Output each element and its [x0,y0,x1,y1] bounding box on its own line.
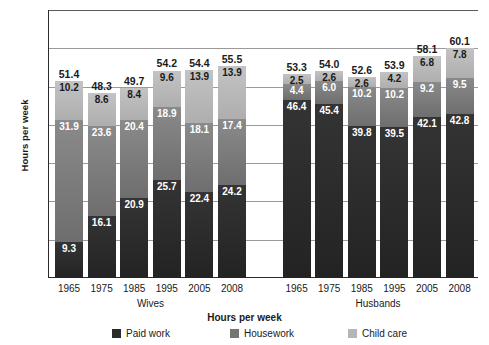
segment-value-label: 6.0 [315,83,343,93]
bar-segment-child: 2.6 [348,77,376,87]
segment-value-label: 25.7 [153,182,181,192]
bar-wives-2008: 13.917.424.2 [218,66,246,278]
bar-segment-paid: 39.5 [380,127,408,278]
segment-value-label: 13.9 [185,72,213,82]
bar-segment-house: 9.2 [413,82,441,117]
y-axis-title: Hours per week [19,76,30,196]
segment-value-label: 24.2 [218,187,246,197]
segment-value-label: 39.5 [380,129,408,139]
bar-segment-child: 13.9 [185,70,213,123]
bar-total-label: 55.5 [212,53,252,65]
segment-value-label: 4.2 [380,74,408,84]
bar-wives-1995: 9.618.925.7 [153,71,181,279]
bar-segment-paid: 42.1 [413,117,441,278]
bar-segment-child: 2.6 [315,71,343,81]
bar-total-label: 49.7 [114,75,154,87]
segment-value-label: 20.9 [120,200,148,210]
legend-label: Paid work [126,328,170,339]
segment-value-label: 10.2 [380,90,408,100]
segment-value-label: 31.9 [55,122,83,132]
bar-wives-2005: 13.918.122.4 [185,70,213,278]
bar-total-label: 60.1 [440,35,480,47]
legend-item-housework[interactable]: Housework [230,328,294,339]
bar-total-label: 53.9 [374,59,414,71]
bar-husbands-1965: 2.54.446.4 [283,74,311,278]
bar-segment-house: 10.2 [348,87,376,126]
segment-value-label: 8.6 [88,95,116,105]
segment-value-label: 4.4 [283,86,311,96]
bar-segment-house: 6.0 [315,81,343,104]
x-tick-label-husbands-2008: 2008 [440,283,480,294]
legend-swatch-icon [230,329,239,338]
bar-husbands-2008: 7.89.542.8 [446,48,474,278]
stacked-bar-chart: Hours per week 010203040506070 10.231.99… [0,0,489,345]
legend-swatch-icon [112,329,121,338]
segment-value-label: 42.8 [446,116,474,126]
bar-segment-paid: 42.8 [446,114,474,278]
bar-husbands-1975: 2.66.045.4 [315,71,343,278]
group-label-husbands: Husbands [308,298,448,309]
bar-wives-1985: 8.420.420.9 [120,88,148,278]
segment-value-label: 9.6 [153,73,181,83]
segment-value-label: 10.2 [55,83,83,93]
segment-value-label: 8.4 [120,90,148,100]
segment-value-label: 22.4 [185,194,213,204]
bar-segment-child: 7.8 [446,48,474,78]
bar-husbands-1985: 2.610.239.8 [348,77,376,278]
segment-value-label: 10.2 [348,89,376,99]
segment-value-label: 9.3 [55,244,83,254]
segment-value-label: 39.8 [348,128,376,138]
chart-legend: Paid workHouseworkChild care [0,328,489,344]
bar-segment-paid: 25.7 [153,180,181,278]
bar-segment-paid: 46.4 [283,100,311,278]
bar-segment-child: 4.2 [380,72,408,88]
segment-value-label: 13.9 [218,68,246,78]
bar-total-label: 51.4 [49,68,89,80]
bar-segment-house: 4.4 [283,84,311,101]
bar-segment-child: 8.6 [88,93,116,126]
x-tick-label-wives-2008: 2008 [212,283,252,294]
segment-value-label: 6.8 [413,58,441,68]
bar-segment-house: 31.9 [55,120,83,242]
segment-value-label: 23.6 [88,128,116,138]
legend-label: Child care [362,328,407,339]
segment-value-label: 20.4 [120,122,148,132]
bar-segment-child: 8.4 [120,88,148,120]
bar-segment-paid: 22.4 [185,192,213,278]
segment-value-label: 9.2 [413,84,441,94]
segment-value-label: 16.1 [88,218,116,228]
segment-value-label: 7.8 [446,50,474,60]
segment-value-label: 42.1 [413,119,441,129]
bar-segment-paid: 45.4 [315,104,343,278]
bar-segment-child: 2.5 [283,74,311,84]
legend-swatch-icon [348,329,357,338]
bar-segment-child: 9.6 [153,71,181,108]
segment-value-label: 17.4 [218,121,246,131]
bar-segment-child: 13.9 [218,66,246,119]
x-axis-title: Hours per week [0,312,489,323]
bar-segment-house: 18.9 [153,107,181,179]
bar-segment-paid: 9.3 [55,242,83,278]
bar-husbands-2005: 6.89.242.1 [413,56,441,278]
segment-value-label: 45.4 [315,106,343,116]
bar-segment-house: 18.1 [185,123,213,192]
bar-segment-house: 17.4 [218,119,246,186]
segment-value-label: 46.4 [283,102,311,112]
bar-segment-house: 10.2 [380,88,408,127]
bar-segment-house: 9.5 [446,78,474,114]
legend-item-child-care[interactable]: Child care [348,328,407,339]
bar-husbands-1995: 4.210.239.5 [380,72,408,278]
bar-segment-paid: 24.2 [218,185,246,278]
bar-segment-paid: 16.1 [88,216,116,278]
bar-segment-paid: 39.8 [348,126,376,278]
legend-label: Housework [244,328,294,339]
legend-item-paid-work[interactable]: Paid work [112,328,170,339]
segment-value-label: 18.9 [153,109,181,119]
bar-segment-house: 23.6 [88,126,116,216]
bar-segment-child: 6.8 [413,56,441,82]
bar-wives-1975: 8.623.616.1 [88,93,116,278]
group-label-wives: Wives [81,298,221,309]
bar-segment-child: 10.2 [55,81,83,120]
bar-segment-house: 20.4 [120,120,148,198]
segment-value-label: 18.1 [185,125,213,135]
